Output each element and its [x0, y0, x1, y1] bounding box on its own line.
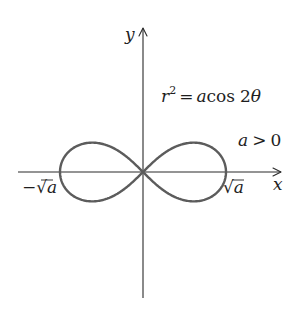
equation-label: r2=acos2θ [161, 84, 261, 106]
condition-label: a>0 [238, 130, 281, 150]
equation-exponent: 2 [169, 84, 176, 97]
equation-theta: θ [251, 86, 261, 106]
left-intercept-sign: − [22, 177, 36, 197]
condition-op: > [252, 130, 266, 150]
x-axis-label: x [273, 174, 283, 194]
equation-equals: = [179, 86, 193, 106]
condition-value: 0 [270, 130, 281, 150]
equation-a: a [196, 86, 206, 106]
lemniscate-figure: y x r2=acos2θ a>0 −√a √a [0, 0, 300, 317]
equation-two: 2 [240, 86, 251, 106]
condition-var: a [238, 130, 248, 150]
y-axis-label: y [124, 24, 135, 44]
equation-cos: cos [207, 86, 235, 106]
